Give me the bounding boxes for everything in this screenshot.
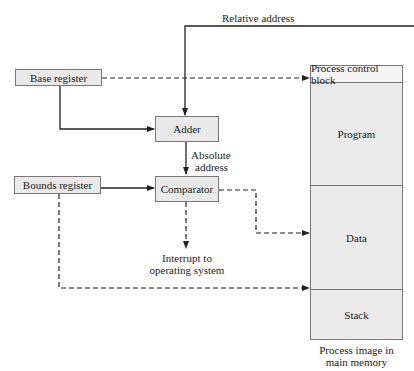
comparator-box: Comparator	[155, 176, 219, 202]
interrupt-line1: Interrupt to	[146, 252, 228, 264]
absolute-address-line1: Absolute	[191, 149, 231, 161]
comparator-to-data-dashed-arrow	[219, 190, 309, 233]
interrupt-label: Interrupt to operating system	[146, 252, 228, 276]
base-register-box: Base register	[15, 69, 102, 86]
adder-label: Adder	[173, 123, 201, 135]
data-segment: Data	[311, 186, 402, 290]
process-image: Process control block Program Data Stack	[310, 65, 403, 340]
caption-line1: Process image in	[310, 344, 403, 356]
caption-line2: main memory	[310, 356, 403, 368]
comparator-label: Comparator	[161, 183, 214, 195]
program-label: Program	[338, 128, 376, 140]
program-segment: Program	[311, 83, 402, 186]
relative-address-label: Relative address	[222, 12, 294, 24]
base-to-adder-arrow	[60, 85, 154, 129]
process-control-block: Process control block	[311, 66, 402, 83]
data-label: Data	[346, 232, 367, 244]
bounds-register-label: Bounds register	[23, 179, 92, 191]
stack-label: Stack	[344, 309, 368, 321]
process-image-caption: Process image in main memory	[310, 344, 403, 368]
base-register-label: Base register	[30, 72, 87, 84]
interrupt-line2: operating system	[146, 264, 228, 276]
absolute-address-line2: address	[191, 161, 231, 173]
absolute-address-label: Absolute address	[191, 149, 231, 173]
bounds-register-box: Bounds register	[14, 176, 101, 194]
stack-segment: Stack	[311, 290, 402, 339]
adder-box: Adder	[155, 116, 219, 142]
